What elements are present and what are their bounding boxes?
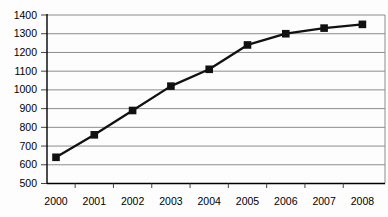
data-point-2006: [282, 30, 290, 38]
y-axis-label-1300: 1300: [14, 27, 38, 39]
data-line-series-1: [56, 24, 362, 157]
x-axis-label-2006: 2006: [274, 195, 298, 207]
data-point-2004: [205, 65, 213, 73]
line-chart-canvas: 5006007008009001000110012001300140020002…: [0, 0, 388, 217]
x-axis-label-2007: 2007: [312, 195, 336, 207]
y-axis-label-1400: 1400: [14, 9, 38, 21]
y-axis-label-1100: 1100: [14, 65, 37, 77]
data-point-2002: [129, 107, 137, 115]
data-point-2005: [244, 41, 252, 49]
data-point-2003: [167, 82, 175, 90]
data-point-2007: [320, 24, 328, 32]
x-axis-label-2002: 2002: [121, 195, 145, 207]
y-axis-label-800: 800: [19, 121, 37, 133]
data-point-2001: [91, 131, 99, 139]
x-axis-label-2005: 2005: [236, 195, 260, 207]
line-chart: 5006007008009001000110012001300140020002…: [0, 0, 388, 217]
y-axis-label-700: 700: [19, 140, 37, 152]
y-axis-label-1000: 1000: [14, 83, 38, 95]
x-axis-label-2001: 2001: [83, 195, 107, 207]
y-axis-label-500: 500: [19, 177, 37, 189]
x-axis-label-2003: 2003: [159, 195, 183, 207]
data-point-2008: [359, 21, 367, 29]
x-axis-label-2008: 2008: [351, 195, 375, 207]
y-axis-label-600: 600: [19, 158, 37, 170]
y-axis-label-900: 900: [19, 102, 37, 114]
x-axis-label-2000: 2000: [44, 195, 68, 207]
data-point-2000: [52, 153, 60, 161]
y-axis-label-1200: 1200: [14, 46, 38, 58]
x-axis-label-2004: 2004: [198, 195, 222, 207]
